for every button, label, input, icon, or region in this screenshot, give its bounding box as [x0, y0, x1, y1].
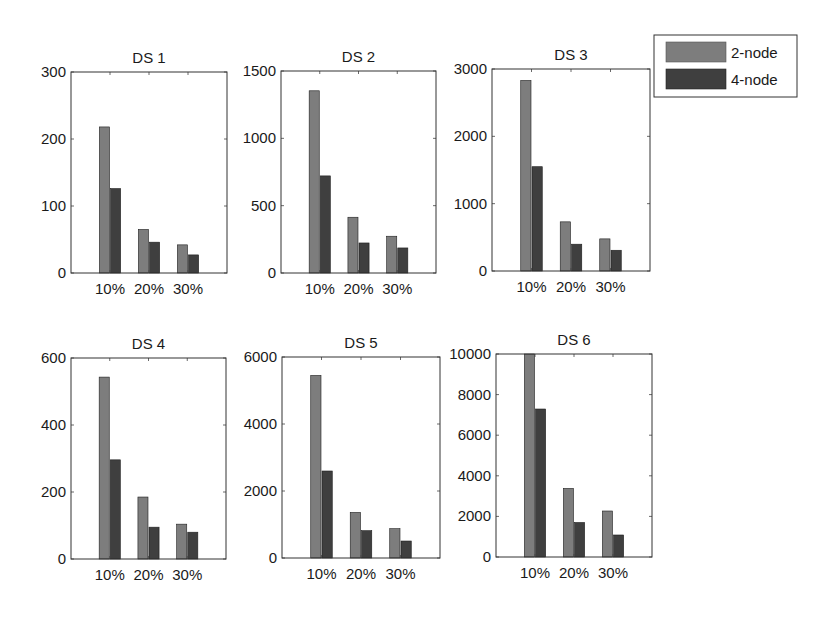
y-tick-label: 1000: [454, 195, 487, 212]
bar-4-node-10%: [110, 460, 120, 559]
x-tick-label: 10%: [95, 280, 125, 297]
y-tick-label: 3000: [454, 60, 487, 77]
x-tick-label: 10%: [305, 280, 335, 297]
subplot-5: 10%20%30%0200040006000DS 5: [244, 334, 440, 582]
bar-4-node-20%: [150, 242, 160, 273]
bar-2-node-30%: [602, 511, 612, 557]
x-tick-label: 10%: [516, 278, 546, 295]
bar-2-node-20%: [138, 497, 148, 559]
bar-4-node-20%: [362, 531, 372, 558]
subplot-title: DS 2: [342, 48, 375, 65]
y-tick-label: 0: [483, 548, 491, 565]
bar-2-node-10%: [521, 80, 531, 271]
y-tick-label: 1000: [243, 129, 276, 146]
y-tick-label: 2000: [244, 482, 277, 499]
bar-4-node-10%: [322, 471, 332, 558]
legend-swatch-4-node: [666, 69, 726, 89]
bar-2-node-30%: [390, 529, 400, 558]
y-tick-label: 600: [41, 349, 66, 366]
subplot-6: 10%20%30%0200040006000800010000DS 6: [449, 331, 652, 581]
bar-4-node-20%: [572, 244, 582, 271]
x-tick-label: 10%: [520, 564, 550, 581]
bar-4-node-20%: [359, 243, 369, 273]
x-tick-label: 30%: [382, 280, 412, 297]
x-tick-label: 30%: [598, 564, 628, 581]
bar-2-node-10%: [99, 127, 109, 273]
x-tick-label: 20%: [134, 280, 164, 297]
subplot-title: DS 6: [557, 331, 590, 348]
legend-swatch-2-node: [666, 42, 726, 62]
bar-4-node-10%: [320, 176, 330, 273]
bar-2-node-10%: [309, 91, 319, 273]
subplot-2: 10%20%30%050010001500DS 2: [243, 48, 436, 297]
x-tick-label: 20%: [346, 565, 376, 582]
bar-4-node-30%: [614, 535, 624, 557]
x-tick-label: 20%: [133, 566, 163, 583]
x-tick-label: 30%: [172, 566, 202, 583]
y-tick-label: 8000: [458, 386, 491, 403]
x-tick-label: 20%: [556, 278, 586, 295]
bar-4-node-30%: [188, 532, 198, 559]
legend: 2-node 4-node: [654, 35, 797, 97]
subplot-title: DS 1: [132, 49, 165, 66]
y-tick-label: 300: [41, 63, 66, 80]
y-tick-label: 4000: [244, 415, 277, 432]
x-tick-label: 30%: [385, 565, 415, 582]
bar-4-node-10%: [536, 409, 546, 557]
y-tick-label: 0: [268, 264, 276, 281]
subplot-3: 10%20%30%0100020003000DS 3: [454, 46, 650, 295]
y-tick-label: 6000: [458, 426, 491, 443]
subplot-title: DS 4: [132, 335, 165, 352]
y-tick-label: 200: [41, 483, 66, 500]
bar-4-node-20%: [149, 527, 159, 559]
x-tick-label: 20%: [343, 280, 373, 297]
y-tick-label: 500: [251, 197, 276, 214]
bar-2-node-20%: [560, 222, 570, 271]
x-tick-label: 20%: [559, 564, 589, 581]
bar-2-node-10%: [99, 377, 109, 559]
subplot-1: 10%20%30%0100200300DS 1: [41, 49, 227, 297]
y-tick-label: 0: [479, 262, 487, 279]
bar-2-node-30%: [600, 239, 610, 271]
legend-label-4-node: 4-node: [731, 71, 778, 88]
bar-4-node-30%: [401, 541, 411, 558]
y-tick-label: 2000: [458, 507, 491, 524]
y-tick-label: 0: [58, 550, 66, 567]
bar-2-node-20%: [138, 229, 148, 273]
bar-2-node-30%: [387, 236, 397, 273]
y-tick-label: 6000: [244, 348, 277, 365]
x-tick-label: 30%: [173, 280, 203, 297]
y-tick-label: 1500: [243, 62, 276, 79]
y-tick-label: 100: [41, 197, 66, 214]
x-tick-label: 30%: [595, 278, 625, 295]
bar-2-node-10%: [524, 354, 534, 557]
bar-2-node-20%: [563, 488, 573, 557]
bar-2-node-20%: [348, 217, 358, 273]
y-tick-label: 4000: [458, 467, 491, 484]
bar-4-node-10%: [532, 167, 542, 271]
bar-2-node-30%: [177, 524, 187, 559]
bar-4-node-30%: [189, 255, 199, 273]
bar-2-node-20%: [350, 512, 360, 558]
bar-4-node-30%: [398, 248, 408, 273]
bar-4-node-20%: [575, 522, 585, 557]
y-tick-label: 10000: [449, 345, 491, 362]
subplot-title: DS 3: [554, 46, 587, 63]
bar-4-node-30%: [611, 250, 621, 271]
y-tick-label: 200: [41, 130, 66, 147]
bar-2-node-10%: [311, 375, 321, 558]
bar-4-node-10%: [111, 189, 121, 273]
subplot-4: 10%20%30%0200400600DS 4: [41, 335, 226, 583]
x-tick-label: 10%: [306, 565, 336, 582]
subplot-grid: 10%20%30%0100200300DS 110%20%30%05001000…: [41, 46, 652, 583]
x-tick-label: 10%: [95, 566, 125, 583]
subplot-title: DS 5: [344, 334, 377, 351]
y-tick-label: 0: [269, 549, 277, 566]
y-tick-label: 0: [58, 264, 66, 281]
chart-figure: 10%20%30%0100200300DS 110%20%30%05001000…: [0, 0, 833, 620]
y-tick-label: 400: [41, 416, 66, 433]
legend-label-2-node: 2-node: [731, 44, 778, 61]
y-tick-label: 2000: [454, 127, 487, 144]
bar-2-node-30%: [177, 245, 187, 273]
